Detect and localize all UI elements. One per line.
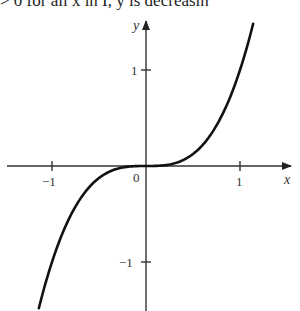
y-tick-label-pos1: 1 (131, 63, 138, 78)
x-tick-label-neg1: −1 (42, 174, 56, 189)
y-axis-label: y (131, 18, 140, 33)
y-tick-label-neg1: −1 (119, 255, 133, 270)
origin-label: 0 (133, 170, 140, 185)
x-tick-label-pos1: 1 (236, 174, 243, 189)
x-axis-label: x (283, 172, 291, 187)
cubic-function-plot: y x 0 −1 1 1 −1 (0, 0, 300, 311)
